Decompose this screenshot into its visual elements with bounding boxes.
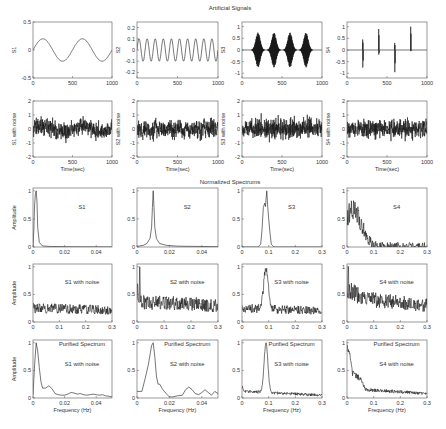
x-tick-label: 0 xyxy=(240,159,243,165)
y-tick-label: 1 xyxy=(132,340,135,346)
subplot-spec_s3: 00.10.20.300.51S3 xyxy=(232,188,325,255)
x-tick-label: 500 xyxy=(382,80,391,86)
x-tick-label: 0 xyxy=(135,159,138,165)
x-tick-label: 500 xyxy=(277,159,286,165)
y-tick-label: 0 xyxy=(132,244,135,250)
y-tick-label: -2 xyxy=(340,154,345,160)
x-tick-label: 1000 xyxy=(212,159,224,165)
plot-annotation: Purified Spectrum xyxy=(164,341,210,347)
x-tick-label: 0 xyxy=(31,159,34,165)
x-tick-label: 0 xyxy=(345,159,348,165)
y-axis-label: S3 with noise xyxy=(220,113,226,146)
y-tick-label: -2 xyxy=(235,154,240,160)
plot-annotation: Purified Spectrum xyxy=(374,341,420,347)
x-tick-label: 0.2 xyxy=(292,324,300,330)
y-tick-label: 0.5 xyxy=(337,367,345,373)
plot-annotation: S1 with noise xyxy=(65,279,99,285)
y-tick-label: 1 xyxy=(28,264,31,270)
y-tick-label: 0.5 xyxy=(232,35,240,41)
y-tick-label: -1 xyxy=(130,140,135,146)
x-tick-label: 500 xyxy=(382,159,391,165)
subplot-s4: 05001000-1-0.500.51S4 xyxy=(325,22,433,86)
x-tick-label: 0.3 xyxy=(318,249,326,255)
plot-annotation: S3 with noise xyxy=(274,361,308,367)
y-axis-label: S2 xyxy=(115,47,121,54)
subplot-spec_s2: 00.020.0400.51S2 xyxy=(127,188,218,255)
x-tick-label: 500 xyxy=(173,159,182,165)
y-axis-label: Amplitude xyxy=(11,281,17,305)
plot-annotation: S4 with noise xyxy=(379,279,413,285)
y-tick-label: 0.5 xyxy=(232,367,240,373)
figure: Artificial Signals Normalized Spectrums … xyxy=(0,0,446,429)
y-tick-label: 1 xyxy=(237,188,240,194)
plot-annotation: S2 with noise xyxy=(170,279,204,285)
x-tick-label: 0.3 xyxy=(214,324,222,330)
data-line xyxy=(137,191,218,247)
y-tick-label: 0 xyxy=(237,395,240,401)
y-tick-label: 1 xyxy=(342,264,345,270)
y-tick-label: -1 xyxy=(340,140,345,146)
data-line xyxy=(347,117,427,141)
data-line xyxy=(137,267,218,312)
subplot-spec_s3n: 00.10.20.300.51S3 with noise xyxy=(232,264,325,330)
x-tick-label: 0.02 xyxy=(164,400,175,406)
x-tick-label: 500 xyxy=(173,80,182,86)
y-tick-label: 1 xyxy=(28,188,31,194)
data-line xyxy=(33,343,112,397)
x-axis-label: Frequency (Hz) xyxy=(368,407,406,413)
y-tick-label: 0 xyxy=(342,47,345,53)
x-tick-label: 0 xyxy=(240,324,243,330)
y-tick-label: 0.5 xyxy=(23,291,31,297)
subplot-spec_s1n: 00.10.20.300.51AmplitudeS1 with noise xyxy=(11,264,116,330)
axes-box xyxy=(242,340,322,398)
y-tick-label: 1 xyxy=(28,340,31,346)
y-tick-label: 0 xyxy=(28,126,31,132)
y-tick-label: -0.1 xyxy=(126,58,135,64)
y-tick-label: 1 xyxy=(132,264,135,270)
y-tick-label: -0.5 xyxy=(22,75,31,81)
subplot-s3n: 05001000-2-1012S3 with noiseTime(sec) xyxy=(220,98,328,172)
y-tick-label: -1 xyxy=(235,140,240,146)
y-tick-label: 1 xyxy=(237,112,240,118)
subplot-spec_s1: 00.020.0400.51AmplitudeS1 xyxy=(11,188,112,255)
subplot-spec_s2n: 00.10.20.300.51S2 with noise xyxy=(127,264,221,330)
y-tick-label: -0.2 xyxy=(126,69,135,75)
y-tick-label: 0.5 xyxy=(127,291,135,297)
y-tick-label: -0.5 xyxy=(336,59,345,65)
y-tick-label: 0 xyxy=(342,126,345,132)
y-tick-label: 0 xyxy=(237,319,240,325)
x-tick-label: 0.1 xyxy=(370,324,378,330)
x-tick-label: 0.04 xyxy=(91,249,102,255)
y-tick-label: 1 xyxy=(132,112,135,118)
plot-annotation: S2 xyxy=(184,204,191,210)
y-tick-label: 1 xyxy=(28,112,31,118)
data-line xyxy=(347,345,427,395)
x-tick-label: 1000 xyxy=(316,159,328,165)
y-tick-label: 0.5 xyxy=(232,291,240,297)
y-tick-label: 0.5 xyxy=(23,19,31,25)
x-tick-label: 0.2 xyxy=(397,400,405,406)
x-tick-label: 0 xyxy=(31,400,34,406)
data-line xyxy=(242,113,322,142)
x-tick-label: 1000 xyxy=(421,80,433,86)
data-line xyxy=(33,116,112,143)
x-tick-label: 0.3 xyxy=(108,324,116,330)
y-tick-label: 0 xyxy=(342,319,345,325)
x-tick-label: 500 xyxy=(68,159,77,165)
x-tick-label: 0.3 xyxy=(423,249,431,255)
data-line xyxy=(137,39,218,61)
x-tick-label: 0.02 xyxy=(59,249,70,255)
axes-box xyxy=(137,340,218,398)
x-tick-label: 0 xyxy=(345,324,348,330)
subplot-pur_s1n: 00.020.0400.51AmplitudeFrequency (Hz)Pur… xyxy=(11,340,112,413)
axes-box xyxy=(242,264,322,322)
y-tick-label: 1 xyxy=(342,112,345,118)
subplot-pur_s3n: 00.10.20.300.51Frequency (Hz)Purified Sp… xyxy=(232,340,325,413)
y-tick-label: 1 xyxy=(237,340,240,346)
axes-box xyxy=(347,340,427,398)
y-tick-label: 0 xyxy=(132,319,135,325)
plot-annotation: S4 xyxy=(393,204,401,210)
x-tick-label: 0.2 xyxy=(187,324,195,330)
y-tick-label: 0 xyxy=(237,244,240,250)
x-tick-label: 0.2 xyxy=(397,249,405,255)
